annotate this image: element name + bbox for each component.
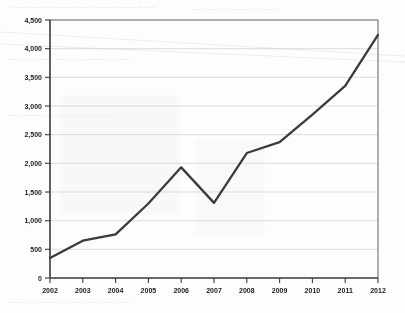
y-axis-labels: 4,500 4,000 3,500 3,000 2,500 2,000 1,50… <box>24 17 42 282</box>
xtick-label-2008: 2008 <box>239 287 255 294</box>
xtick-label-2012: 2012 <box>370 287 386 294</box>
ytick-label-4000: 4,000 <box>24 45 42 53</box>
x-axis-labels: 2002 2003 2004 2005 2006 2007 2008 2009 … <box>42 287 386 294</box>
ghost-streak-top <box>0 32 405 56</box>
ghost-bleed-text: ‒ ‒‒ ‒‒‒ ‒ ‒‒‒‒ ‒‒ ‒ ‒‒‒ ‒‒‒‒ ‒ ‒‒ ‒‒ ‒‒… <box>8 2 278 307</box>
ytick-label-2500: 2,500 <box>24 131 42 139</box>
line-chart-figure: ‒ ‒‒ ‒‒‒ ‒ ‒‒‒‒ ‒‒ ‒ ‒‒‒ ‒‒‒‒ ‒ ‒‒ ‒‒ ‒‒… <box>0 0 405 313</box>
ytick-label-500: 500 <box>30 246 42 253</box>
plot-frame <box>50 20 378 278</box>
gridlines <box>50 20 378 249</box>
ghost-smudge-left <box>60 95 180 215</box>
chart-plot-area: ‒ ‒‒ ‒‒‒ ‒ ‒‒‒‒ ‒‒ ‒ ‒‒‒ ‒‒‒‒ ‒ ‒‒ ‒‒ ‒‒… <box>0 0 405 313</box>
xtick-label-2003: 2003 <box>75 287 91 294</box>
svg-text:‒‒ ‒‒‒ ‒‒ ‒‒‒‒ ‒ ‒‒‒: ‒‒ ‒‒‒ ‒‒ ‒‒‒‒ ‒ ‒‒‒ <box>190 4 278 14</box>
xtick-label-2011: 2011 <box>338 287 353 294</box>
svg-text:‒‒‒ ‒ ‒‒‒‒ ‒‒ ‒‒ ‒‒‒‒‒ ‒ ‒‒‒: ‒‒‒ ‒ ‒‒‒‒ ‒‒ ‒‒ ‒‒‒‒‒ ‒ ‒‒‒ <box>8 54 131 64</box>
ytick-label-0: 0 <box>38 275 42 282</box>
xtick-label-2002: 2002 <box>42 287 58 294</box>
ghost-streak-second <box>0 44 405 62</box>
ytick-label-1000: 1,000 <box>24 217 42 225</box>
svg-text:‒‒ ‒‒‒‒ ‒ ‒‒ ‒‒‒‒ ‒‒ ‒‒‒ ‒‒: ‒‒ ‒‒‒‒ ‒ ‒‒ ‒‒‒‒ ‒‒ ‒‒‒ ‒‒ <box>8 110 126 120</box>
xtick-label-2006: 2006 <box>173 287 189 294</box>
xtick-label-2009: 2009 <box>272 287 288 294</box>
xtick-label-2005: 2005 <box>141 287 157 294</box>
xtick-label-2010: 2010 <box>305 287 321 294</box>
data-series-line <box>50 35 378 258</box>
ytick-label-3500: 3,500 <box>24 74 42 82</box>
ytick-label-3000: 3,000 <box>24 103 42 111</box>
svg-text:‒ ‒‒ ‒‒‒ ‒ ‒‒‒‒ ‒‒ ‒ ‒‒‒ ‒‒‒‒: ‒ ‒‒ ‒‒‒ ‒ ‒‒‒‒ ‒‒ ‒ ‒‒‒ ‒‒‒‒ ‒ ‒‒ <box>10 2 155 12</box>
scan-artifacts: ‒ ‒‒ ‒‒‒ ‒ ‒‒‒‒ ‒‒ ‒ ‒‒‒ ‒‒‒‒ ‒ ‒‒ ‒‒ ‒‒… <box>0 2 405 307</box>
ytick-label-1500: 1,500 <box>24 189 42 197</box>
ytick-label-4500: 4,500 <box>24 17 42 25</box>
xtick-label-2004: 2004 <box>108 287 124 294</box>
xtick-label-2007: 2007 <box>206 287 222 294</box>
ytick-label-2000: 2,000 <box>24 160 42 168</box>
svg-text:‒‒‒ ‒‒ ‒‒‒‒ ‒ ‒‒‒ ‒‒ ‒‒‒‒ ‒‒: ‒‒‒ ‒‒ ‒‒‒‒ ‒ ‒‒‒ ‒‒ ‒‒‒‒ ‒‒ <box>8 297 131 307</box>
